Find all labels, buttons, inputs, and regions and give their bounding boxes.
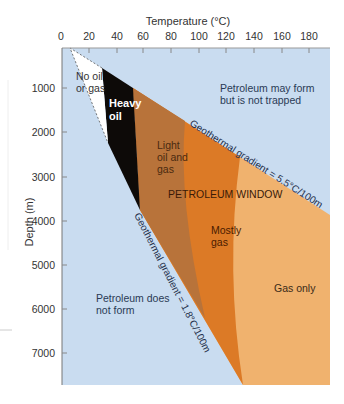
y-tick-label: 6000 bbox=[32, 303, 56, 315]
x-axis-title: Temperature (°C) bbox=[146, 15, 230, 27]
x-tick-label: 180 bbox=[300, 30, 318, 42]
x-tick-label: 140 bbox=[245, 30, 263, 42]
petroleum-window-chart: 0 20 40 60 80 100 120 140 160 180 Temper… bbox=[0, 0, 344, 404]
y-tick-label: 4000 bbox=[32, 215, 56, 227]
x-tick-label: 120 bbox=[217, 30, 235, 42]
y-tick-label: 5000 bbox=[32, 259, 56, 271]
x-tick-label: 80 bbox=[165, 30, 177, 42]
x-tick-label: 60 bbox=[137, 30, 149, 42]
label-mostly-gas: Mostly bbox=[211, 224, 242, 236]
svg-text:No oil or gas: No oil or gas bbox=[76, 70, 106, 94]
label-heavy-oil: oil bbox=[109, 110, 122, 122]
label-mostly-gas: gas bbox=[211, 236, 228, 248]
label-heavy-oil: Heavy bbox=[109, 97, 142, 109]
label-petroleum-window: PETROLEUM WINDOW bbox=[168, 188, 282, 200]
label-gas-only: Gas only bbox=[274, 282, 316, 294]
y-tick-label: 3000 bbox=[32, 171, 56, 183]
y-tick-label: 7000 bbox=[32, 347, 56, 359]
x-tick-label: 100 bbox=[190, 30, 208, 42]
x-tick-label: 160 bbox=[273, 30, 291, 42]
label-no-oil: or gas bbox=[76, 82, 105, 94]
x-tick-label: 20 bbox=[83, 30, 95, 42]
label-light-oil: gas bbox=[157, 163, 174, 175]
y-tick-label: 2000 bbox=[32, 126, 56, 138]
label-light-oil: oil and bbox=[157, 151, 188, 163]
label-light-oil: Light bbox=[157, 139, 180, 151]
y-axis-title: Depth (m) bbox=[23, 198, 35, 247]
x-tick-label: 0 bbox=[58, 30, 64, 42]
label-not-form: not form bbox=[96, 304, 135, 316]
label-not-form: Petroleum does bbox=[96, 292, 170, 304]
label-not-trapped: Petroleum may form bbox=[220, 82, 315, 94]
y-tick-label: 1000 bbox=[32, 82, 56, 94]
label-not-trapped: but is not trapped bbox=[220, 94, 301, 106]
x-tick-label: 40 bbox=[111, 30, 123, 42]
label-no-oil: No oil bbox=[76, 70, 103, 82]
